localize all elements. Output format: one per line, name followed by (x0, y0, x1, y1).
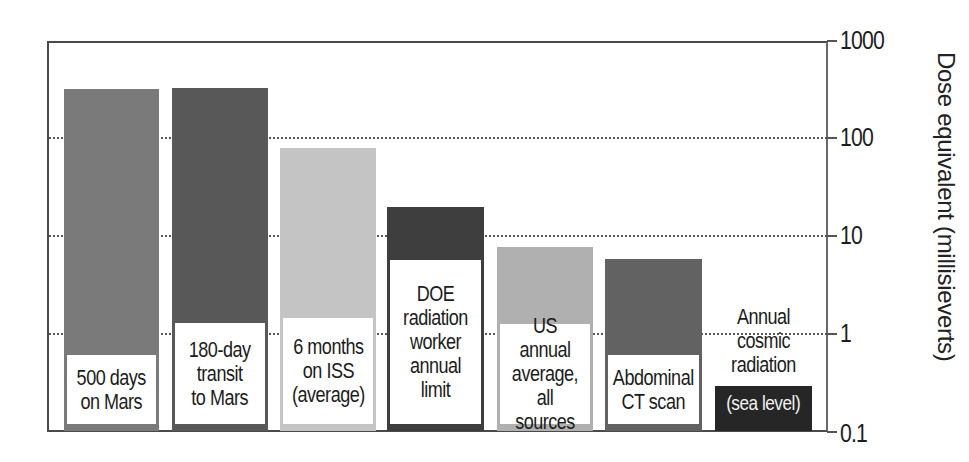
bar-label-us-annual-average: US annual average, all sources (500, 324, 590, 424)
bar-label-text: 500 days on Mars (77, 366, 146, 414)
y-axis-label: Dose equivalent (millisieverts) (928, 52, 964, 428)
bar-label-6-months-iss: 6 months on ISS (average) (283, 318, 373, 424)
bar-label-text: (sea level) (726, 391, 800, 415)
bar-label-180-day-transit: 180-day transit to Mars (175, 323, 265, 424)
bar-label-abdominal-ct: Abdominal CT scan (608, 355, 699, 424)
bar-label-text: 180-day transit to Mars (189, 338, 251, 410)
bar-label-annual-cosmic: Annual cosmic radiation (715, 305, 812, 377)
tick-label-1000: 1000 (840, 28, 884, 53)
tick-label-100: 100 (840, 125, 873, 150)
bar-label-text: DOE radiation worker annual limit (403, 282, 468, 402)
radiation-dose-chart: 500 days on Mars 180-day transit to Mars… (0, 0, 969, 462)
bar-label-text: Abdominal CT scan (613, 366, 694, 414)
bar-label-text: US annual average, all sources (508, 314, 582, 434)
tick-label-0-1: 0.1 (840, 421, 867, 446)
tick-label-1: 1 (840, 321, 851, 346)
tick-10 (827, 235, 837, 237)
gridline-100 (49, 137, 827, 139)
bar-label-500-days-on-mars: 500 days on Mars (67, 355, 156, 424)
bar-label-doe-worker-limit: DOE radiation worker annual limit (390, 260, 481, 424)
tick-label-10: 10 (840, 223, 862, 248)
bar-label-sea-level: (sea level) (715, 391, 812, 415)
tick-1000 (827, 40, 837, 42)
bar-label-text: 6 months on ISS (average) (292, 335, 365, 407)
bar-label-text: Annual cosmic radiation (731, 305, 796, 377)
tick-1 (827, 333, 837, 335)
tick-0-1 (827, 431, 837, 433)
tick-100 (827, 137, 837, 139)
